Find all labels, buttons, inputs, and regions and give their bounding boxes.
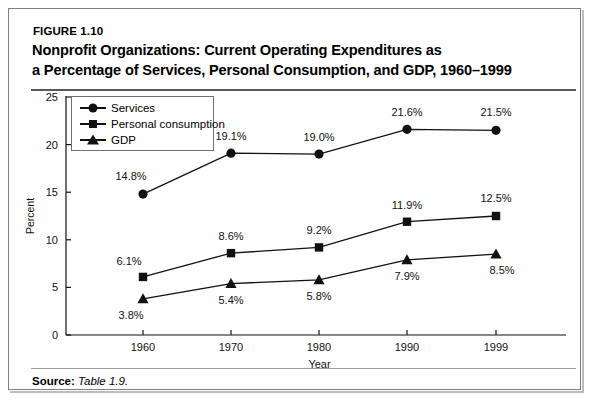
legend-item-gdp: GDP bbox=[80, 132, 136, 148]
figure-frame: FIGURE 1.10 Nonprofit Organizations: Cur… bbox=[8, 8, 581, 390]
chart-legend: Services Personal consumption GDP bbox=[71, 96, 214, 151]
source-note: Source: Table 1.9. bbox=[32, 375, 128, 387]
legend-item-services: Services bbox=[80, 100, 155, 116]
circle-marker-icon bbox=[80, 101, 106, 115]
square-marker-icon bbox=[80, 117, 106, 131]
source-value: Table 1.9. bbox=[78, 375, 128, 387]
figure-title-line-1: Nonprofit Organizations: Current Operati… bbox=[32, 40, 577, 60]
figure-title-line-2: a Percentage of Services, Personal Consu… bbox=[32, 60, 577, 80]
source-divider bbox=[31, 368, 576, 369]
figure-container: FIGURE 1.10 Nonprofit Organizations: Cur… bbox=[0, 0, 593, 406]
figure-number-label: FIGURE 1.10 bbox=[33, 25, 103, 37]
legend-label-gdp: GDP bbox=[111, 133, 136, 147]
triangle-marker-icon bbox=[80, 133, 106, 147]
source-label: Source: bbox=[32, 375, 75, 387]
frame-shadow-right bbox=[582, 10, 584, 393]
legend-label-personal-consumption: Personal consumption bbox=[111, 117, 225, 131]
title-divider bbox=[31, 89, 576, 91]
figure-title: Nonprofit Organizations: Current Operati… bbox=[32, 40, 577, 80]
legend-label-services: Services bbox=[111, 101, 155, 115]
frame-shadow-bottom bbox=[10, 391, 583, 393]
legend-item-personal-consumption: Personal consumption bbox=[80, 116, 225, 132]
